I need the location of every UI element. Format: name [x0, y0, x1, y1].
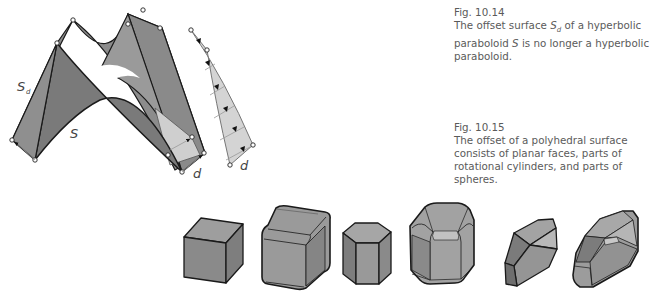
- solid-hexagonal-prism-offset: [410, 203, 474, 284]
- label-distance-d-detail: d: [240, 158, 249, 173]
- label-offset-subscript: d: [26, 88, 31, 96]
- solid-cube: [184, 218, 243, 283]
- solid-polyhedron-offset: [573, 211, 638, 287]
- solid-polyhedron: [505, 219, 557, 286]
- hyperbolic-paraboloid-figure: S d S d: [10, 8, 206, 181]
- label-distance-d: d: [193, 166, 202, 181]
- solid-cube-offset: [262, 206, 330, 290]
- solid-hexagonal-prism: [343, 223, 391, 284]
- label-offset-surface: S: [17, 79, 25, 94]
- figure-illustrations: S d S d d: [0, 0, 652, 302]
- label-surface-s: S: [70, 126, 78, 141]
